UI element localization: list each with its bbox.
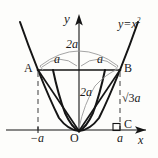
measure-label-bc: √3a	[122, 92, 141, 104]
chord-ob	[79, 70, 120, 131]
measure-label-right-half: a	[97, 53, 103, 65]
measure-label-bc-a: a	[135, 91, 141, 105]
origin-label: O	[70, 132, 79, 144]
point-b-label: B	[124, 62, 132, 74]
measure-label-left-half: a	[54, 53, 60, 65]
curve-equation-label: y=x2	[118, 17, 140, 30]
measure-label-bc-radical: √3	[122, 91, 135, 105]
x-tick-right-label: a	[117, 132, 123, 144]
point-a-label: A	[24, 62, 33, 74]
x-tick-left-label: −a	[30, 132, 44, 144]
measure-label-top-arc: 2a	[66, 38, 78, 50]
point-c-label: C	[124, 118, 132, 130]
curve-equation-exponent: 2	[137, 16, 141, 25]
point-a-dot	[37, 69, 40, 72]
geometry-figure: y x O −a a A B C y=x2 2a a a 2a √3a	[0, 0, 158, 158]
point-b-dot	[119, 69, 122, 72]
x-axis-label: x	[138, 134, 143, 146]
curve-equation-base: y=x	[118, 17, 137, 31]
y-axis-label: y	[64, 12, 70, 25]
chord-oa	[38, 70, 79, 131]
y-axis	[75, 14, 83, 133]
measure-label-chord-ob: 2a	[80, 86, 92, 98]
